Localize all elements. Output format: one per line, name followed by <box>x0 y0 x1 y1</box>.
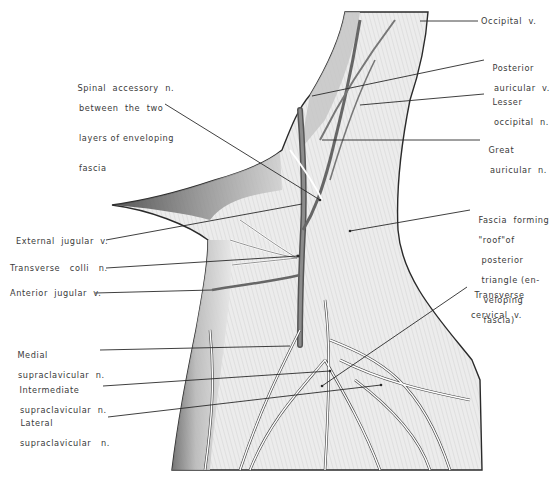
label-line: Intermediate <box>19 385 79 395</box>
label-external-jugular-vein: External jugular v. <box>16 236 108 246</box>
label-line: Medial <box>17 350 47 360</box>
label-line: supraclavicular n. <box>14 438 110 448</box>
label-line: occipital n. <box>486 117 549 127</box>
label-line: auricular n. <box>482 165 547 175</box>
label-occipital-vein: Occipital v. <box>481 16 537 26</box>
label-line: "roof"of <box>478 235 514 245</box>
label-line: fascia <box>71 163 174 173</box>
label-anterior-jugular-vein: Anterior jugular v. <box>10 288 101 298</box>
label-line: Great <box>488 145 514 155</box>
label-great-auricular-nerve: Great auricular n. <box>482 135 547 185</box>
label-spinal-accessory-nerve: Spinal accessory n. between the two laye… <box>71 73 174 183</box>
label-line: between the two <box>71 103 174 113</box>
label-line: Lesser <box>492 97 522 107</box>
label-line: posterior <box>478 255 523 265</box>
label-transverse-cervical-vein: Transverse cervical v. <box>468 280 525 330</box>
label-line: Transverse <box>474 290 524 300</box>
label-transverse-colli-nerve: Transverse colli n. <box>10 263 108 273</box>
label-line: Lateral <box>20 418 53 428</box>
label-line: cervical v. <box>468 310 525 320</box>
label-lesser-occipital-nerve: Lesser occipital n. <box>486 87 549 137</box>
anatomical-illustration: Occipital v. Posterior auricular v. Less… <box>0 0 553 486</box>
label-line: Posterior <box>492 63 534 73</box>
label-lateral-supraclavicular-nerve: Lateral supraclavicular n. <box>14 408 110 458</box>
label-line: layers of enveloping <box>71 133 174 143</box>
label-line: Spinal accessory n. <box>77 83 174 93</box>
label-line: Fascia forming <box>478 215 549 225</box>
